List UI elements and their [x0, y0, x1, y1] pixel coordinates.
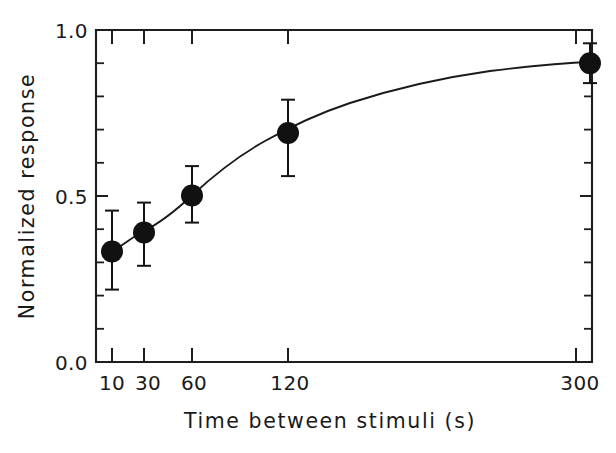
- scatter-plot-canvas: 1.0 0.5 0.0 10 30 60 120 300 Time betwee…: [0, 0, 616, 453]
- y-tick-label-1_0: 1.0: [55, 19, 88, 43]
- x-tick-label-60: 60: [181, 371, 207, 395]
- x-tick-label-10: 10: [99, 371, 125, 395]
- data-point-2: [133, 222, 155, 244]
- y-minor-ticks: [96, 63, 592, 329]
- y-tick-labels: 1.0 0.5 0.0: [55, 19, 88, 375]
- y-tick-label-0_5: 0.5: [55, 185, 88, 209]
- x-tick-labels: 10 30 60 120 300: [99, 371, 600, 395]
- data-point-4: [277, 122, 299, 144]
- error-bars: [105, 43, 597, 289]
- x-tick-label-300: 300: [560, 371, 599, 395]
- data-point-3: [181, 185, 203, 207]
- data-points: [101, 52, 601, 262]
- axis-frame: [96, 30, 592, 362]
- axis-box: [96, 30, 592, 362]
- x-axis-title: Time between stimuli (s): [183, 409, 476, 433]
- data-point-1: [101, 241, 123, 263]
- x-tick-label-120: 120: [270, 371, 309, 395]
- fit-curve: [112, 62, 592, 252]
- data-point-5: [579, 52, 601, 74]
- x-tick-label-30: 30: [135, 371, 161, 395]
- y-major-ticks: [96, 30, 592, 362]
- y-axis-title: Normalized response: [15, 73, 39, 319]
- y-tick-label-0_0: 0.0: [55, 351, 88, 375]
- chart-figure: 1.0 0.5 0.0 10 30 60 120 300 Time betwee…: [0, 0, 616, 453]
